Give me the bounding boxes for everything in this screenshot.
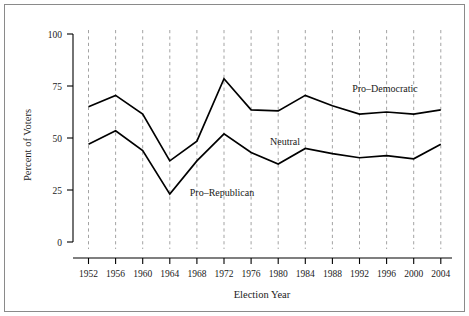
x-tick-label-1996: 1996	[377, 269, 396, 279]
x-tick-label-1972: 1972	[215, 269, 234, 279]
y-tick-label-25: 25	[53, 186, 63, 196]
gridlines	[89, 30, 441, 249]
x-axis: 1952 1956 1960 1964 1968 1972 1976 1980 …	[73, 258, 452, 279]
data-series-group	[89, 79, 441, 194]
x-tick-label-1960: 1960	[133, 269, 152, 279]
y-tick-label-75: 75	[53, 82, 63, 92]
x-tick-label-1968: 1968	[187, 269, 206, 279]
x-axis-title: Election Year	[234, 289, 291, 300]
annotation-neutral: Neutral	[270, 136, 300, 147]
y-axis-title: Percent of Voters	[22, 109, 33, 181]
x-tick-label-1976: 1976	[242, 269, 261, 279]
x-tick-label-1956: 1956	[106, 269, 125, 279]
y-tick-label-0: 0	[57, 238, 62, 248]
y-axis: 100 75 50 25 0	[48, 30, 73, 248]
chart-figure: 100 75 50 25 0 1952 1956 1960	[0, 0, 469, 316]
line-chart: 100 75 50 25 0 1952 1956 1960	[0, 0, 469, 316]
x-tick-label-2004: 2004	[431, 269, 450, 279]
x-tick-label-1952: 1952	[79, 269, 98, 279]
annotation-pro-republican: Pro–Republican	[190, 187, 254, 198]
x-tick-label-1992: 1992	[350, 269, 369, 279]
y-tick-label-100: 100	[48, 30, 63, 40]
x-tick-label-1980: 1980	[269, 269, 288, 279]
x-tick-label-1988: 1988	[323, 269, 342, 279]
x-tick-label-1984: 1984	[296, 269, 315, 279]
x-tick-label-2000: 2000	[404, 269, 423, 279]
series-line-pro-republican	[89, 131, 441, 194]
y-tick-label-50: 50	[53, 134, 63, 144]
x-tick-label-1964: 1964	[160, 269, 179, 279]
annotation-pro-democratic: Pro–Democratic	[352, 83, 418, 94]
